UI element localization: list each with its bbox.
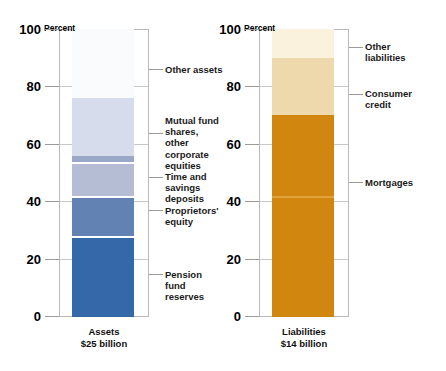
assets-ytick-20: 20: [8, 253, 41, 266]
assets-leader-proprietors: [149, 210, 163, 211]
liabilities-tickmark-0: [245, 316, 259, 317]
segment-proprietors-equity: [72, 198, 134, 236]
liabilities-panel: Percent 100 80 60 40 20 0 Other liabilit…: [223, 0, 446, 371]
liabilities-ytick-0: 0: [208, 310, 241, 323]
liabilities-leader-other-liabilities: [349, 47, 363, 48]
liabilities-leader-mortgages: [349, 182, 363, 183]
liabilities-callout-mortgages: Mortgages: [365, 177, 427, 188]
liabilities-leader-consumer-credit: [349, 94, 363, 95]
liabilities-callout-other-liabilities: Other liabilities: [365, 41, 425, 63]
assets-tickmark-100: [45, 29, 59, 30]
assets-callout-pension-fund-reserves: Pension fund reserves: [165, 269, 223, 303]
segment-pension-fund-reserves: [72, 238, 134, 317]
assets-tickmark-0: [45, 316, 59, 317]
liabilities-tickmark-20: [245, 259, 259, 260]
liabilities-ytick-80: 80: [208, 80, 241, 93]
assets-tickmark-60: [45, 144, 59, 145]
liabilities-stacked-bar: [272, 29, 334, 317]
segment-time-savings-deposits: [72, 164, 134, 196]
assets-leader-other-assets: [149, 69, 163, 70]
assets-ytick-100: 100: [8, 23, 41, 36]
liabilities-tickmark-100: [245, 29, 259, 30]
liabilities-callout-consumer-credit: Consumer credit: [365, 88, 425, 110]
liabilities-ytick-100: 100: [208, 23, 241, 36]
assets-tickmark-20: [45, 259, 59, 260]
assets-tickmark-80: [45, 86, 59, 87]
assets-stacked-bar: [72, 29, 134, 317]
assets-callout-proprietors-equity: Proprietors' equity: [165, 205, 227, 227]
assets-ytick-60: 60: [8, 138, 41, 151]
liabilities-tickmark-40: [245, 201, 259, 202]
assets-tickmark-40: [45, 201, 59, 202]
liabilities-ytick-20: 20: [208, 253, 241, 266]
assets-leader-pension: [149, 274, 163, 275]
liabilities-caption: Liabilities $14 billion: [254, 326, 354, 350]
liabilities-tickmark-60: [245, 144, 259, 145]
assets-callout-other-assets: Other assets: [165, 64, 223, 75]
segment-mutual-fund-shares: [72, 98, 134, 156]
segment-mortgages-inner-line: [272, 196, 334, 198]
assets-ytick-40: 40: [8, 195, 41, 208]
segment-other-assets: [72, 29, 134, 98]
segment-mortgages: [272, 115, 334, 317]
assets-ytick-80: 80: [8, 80, 41, 93]
assets-panel: Percent 100 80 60 40 20 0 Other assets M…: [0, 0, 223, 371]
assets-leader-mutual-fund: [149, 133, 163, 134]
liabilities-ytick-60: 60: [208, 138, 241, 151]
segment-consumer-credit: [272, 58, 334, 115]
liabilities-tickmark-80: [245, 86, 259, 87]
stacked-bar-figure: Percent 100 80 60 40 20 0 Other assets M…: [0, 0, 446, 371]
assets-caption: Assets $25 billion: [54, 326, 154, 350]
assets-leader-time-savings: [149, 177, 163, 178]
assets-ytick-0: 0: [8, 310, 41, 323]
liabilities-ytick-40: 40: [208, 195, 241, 208]
segment-other-liabilities: [272, 29, 334, 58]
